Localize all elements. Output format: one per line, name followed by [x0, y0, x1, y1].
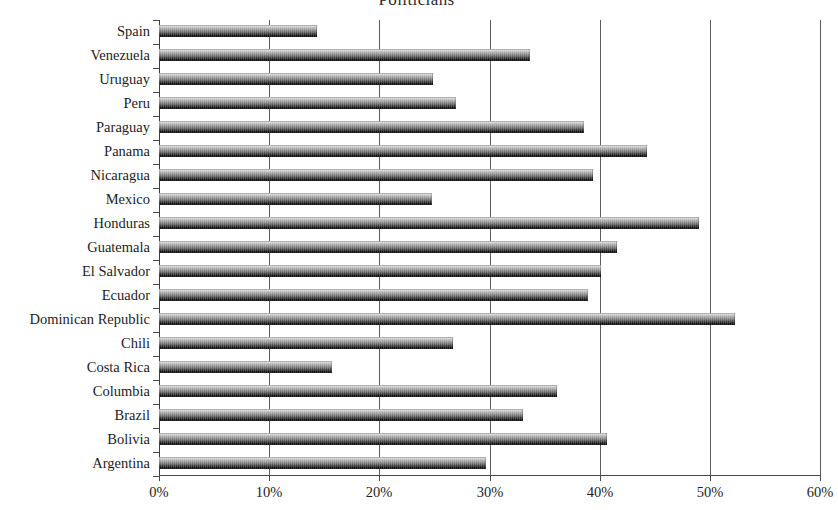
x-axis-label-0pct: 0% — [124, 484, 194, 501]
bar-row — [159, 92, 820, 116]
y-axis-label-chili: Chili — [0, 336, 150, 350]
bar-row — [159, 212, 820, 236]
bar-row — [159, 188, 820, 212]
y-axis-label-paraguay: Paraguay — [0, 120, 150, 134]
x-axis-label-30pct: 30% — [455, 484, 525, 501]
bar-brazil — [159, 409, 523, 421]
y-tick — [153, 332, 159, 333]
x-axis-label-40pct: 40% — [565, 484, 635, 501]
y-tick — [153, 356, 159, 357]
chart-title: Politicians — [0, 0, 833, 10]
y-axis-label-nicaragua: Nicaragua — [0, 168, 150, 182]
y-axis-label-columbia: Columbia — [0, 384, 150, 398]
bar-chili — [159, 337, 453, 349]
x-tick — [269, 475, 270, 481]
y-tick — [153, 44, 159, 45]
bar-row — [159, 20, 820, 44]
y-tick — [153, 140, 159, 141]
bar-nicaragua — [159, 169, 593, 181]
y-tick — [153, 92, 159, 93]
x-axis-label-20pct: 20% — [344, 484, 414, 501]
bar-bolivia — [159, 433, 607, 445]
y-axis-label-mexico: Mexico — [0, 192, 150, 206]
y-tick — [153, 380, 159, 381]
y-axis-label-uruguay: Uruguay — [0, 72, 150, 86]
bar-dominican-republic — [159, 313, 735, 325]
bar-row — [159, 356, 820, 380]
bar-venezuela — [159, 49, 530, 61]
bar-paraguay — [159, 121, 584, 133]
y-tick — [153, 212, 159, 213]
bar-argentina — [159, 457, 486, 469]
bar-columbia — [159, 385, 557, 397]
y-tick — [153, 116, 159, 117]
bar-row — [159, 116, 820, 140]
bar-costa-rica — [159, 361, 332, 373]
bar-ecuador — [159, 289, 588, 301]
bar-honduras — [159, 217, 699, 229]
bar-row — [159, 236, 820, 260]
bar-row — [159, 260, 820, 284]
bar-peru — [159, 97, 456, 109]
bar-mexico — [159, 193, 432, 205]
plot-area — [159, 20, 820, 475]
y-axis-label-guatemala: Guatemala — [0, 240, 150, 254]
gridline-60pct — [820, 20, 821, 475]
y-axis-label-argentina: Argentina — [0, 456, 150, 470]
y-tick — [153, 260, 159, 261]
y-tick — [153, 284, 159, 285]
y-axis-label-bolivia: Bolivia — [0, 432, 150, 446]
bar-panama — [159, 145, 647, 157]
x-tick — [379, 475, 380, 481]
y-tick — [153, 20, 159, 21]
bar-row — [159, 284, 820, 308]
y-axis-label-venezuela: Venezuela — [0, 48, 150, 62]
y-axis-label-spain: Spain — [0, 24, 150, 38]
y-tick — [153, 428, 159, 429]
x-axis-label-60pct: 60% — [785, 484, 838, 501]
bar-row — [159, 428, 820, 452]
x-axis-label-50pct: 50% — [675, 484, 745, 501]
y-axis-label-peru: Peru — [0, 96, 150, 110]
y-tick — [153, 236, 159, 237]
bar-row — [159, 140, 820, 164]
bar-row — [159, 308, 820, 332]
x-tick — [490, 475, 491, 481]
bar-row — [159, 44, 820, 68]
y-tick — [153, 188, 159, 189]
y-tick — [153, 452, 159, 453]
bar-row — [159, 332, 820, 356]
bar-el-salvador — [159, 265, 601, 277]
y-tick — [153, 404, 159, 405]
x-axis-label-10pct: 10% — [234, 484, 304, 501]
bar-row — [159, 68, 820, 92]
bar-spain — [159, 25, 317, 37]
y-axis-label-panama: Panama — [0, 144, 150, 158]
y-tick — [153, 308, 159, 309]
bar-uruguay — [159, 73, 433, 85]
y-axis-label-costa-rica: Costa Rica — [0, 360, 150, 374]
bar-guatemala — [159, 241, 617, 253]
y-axis-label-honduras: Honduras — [0, 216, 150, 230]
y-tick — [153, 68, 159, 69]
x-tick — [600, 475, 601, 481]
x-tick — [710, 475, 711, 481]
x-tick — [820, 475, 821, 481]
x-tick — [159, 475, 160, 481]
y-tick — [153, 164, 159, 165]
bar-row — [159, 452, 820, 476]
y-axis-label-ecuador: Ecuador — [0, 288, 150, 302]
bar-row — [159, 404, 820, 428]
y-axis-label-el-salvador: El Salvador — [0, 264, 150, 278]
y-axis-label-brazil: Brazil — [0, 408, 150, 422]
bar-row — [159, 380, 820, 404]
y-axis-label-dominican-republic: Dominican Republic — [0, 312, 150, 326]
bar-row — [159, 164, 820, 188]
